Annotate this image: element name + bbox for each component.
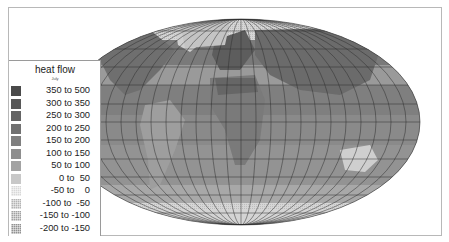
legend-label: 300 to 350: [25, 98, 90, 109]
legend-item: 350 to 500: [11, 85, 99, 96]
legend-item: -200 to -150: [11, 223, 99, 234]
legend-label: -150 to -100: [25, 210, 90, 221]
legend-swatch: [11, 99, 21, 109]
legend-item: 200 to 250: [11, 123, 99, 134]
legend-swatch: [11, 111, 21, 121]
legend-label: 100 to 150: [25, 148, 90, 159]
legend-item: 150 to 200: [11, 135, 99, 146]
legend-label: 250 to 300: [25, 110, 90, 121]
legend-swatch: [11, 211, 21, 221]
legend-item: -150 to -100: [11, 210, 99, 221]
legend-swatch: [11, 124, 21, 134]
legend-panel: heat flow July 350 to 500 300 to 350 250…: [9, 60, 101, 236]
legend-subtitle: July: [9, 76, 101, 81]
legend-item: 0 to 50: [11, 173, 99, 184]
legend-swatch: [11, 149, 21, 159]
legend-label: 350 to 500: [25, 85, 90, 96]
legend-swatch: [11, 224, 21, 234]
legend-label: 50 to 100: [25, 160, 90, 171]
legend-swatch: [11, 161, 21, 171]
legend-item: -50 to 0: [11, 185, 99, 196]
legend-label: -200 to -150: [25, 223, 90, 234]
legend-item: -100 to -50: [11, 198, 99, 209]
legend-swatch: [11, 199, 21, 209]
legend-swatch: [11, 186, 21, 196]
legend-label: 200 to 250: [25, 123, 90, 134]
legend-item: 100 to 150: [11, 148, 99, 159]
legend-swatch: [11, 174, 21, 184]
legend-label: -100 to -50: [25, 198, 90, 209]
legend-item: 300 to 350: [11, 98, 99, 109]
legend-title: heat flow: [9, 64, 101, 75]
legend-label: -50 to 0: [25, 185, 90, 196]
legend-label: 0 to 50: [25, 173, 90, 184]
legend-item: 50 to 100: [11, 160, 99, 171]
legend-item: 250 to 300: [11, 110, 99, 121]
legend-swatch: [11, 136, 21, 146]
legend-label: 150 to 200: [25, 135, 90, 146]
legend-swatch: [11, 86, 21, 96]
